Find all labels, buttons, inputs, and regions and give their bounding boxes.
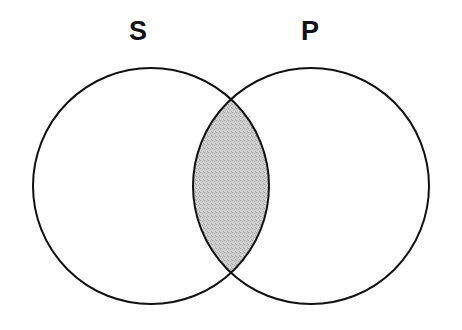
venn-diagram-canvas: S P	[0, 0, 462, 330]
set-label-s: S	[113, 18, 163, 45]
venn-diagram-svg	[0, 0, 462, 330]
set-label-p: P	[285, 18, 335, 45]
